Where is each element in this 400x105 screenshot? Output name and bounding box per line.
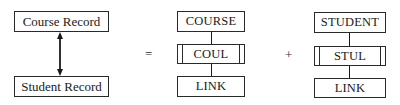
- student-record-label: Student Record: [21, 79, 102, 95]
- coul-box: COUL: [177, 44, 245, 64]
- student-label: STUDENT: [321, 15, 379, 30]
- connector-line: [211, 64, 212, 76]
- connector-line: [349, 66, 350, 78]
- student-record-box: Student Record: [14, 76, 109, 97]
- stul-label: STUL: [334, 49, 366, 64]
- equals-sign: =: [145, 47, 152, 60]
- connector-line: [211, 32, 212, 44]
- student-box: STUDENT: [314, 12, 386, 33]
- course-label: COURSE: [186, 14, 237, 29]
- course-link-label: LINK: [196, 79, 227, 94]
- coul-label: COUL: [194, 47, 229, 62]
- course-box: COURSE: [177, 11, 245, 32]
- stul-box: STUL: [314, 46, 386, 66]
- connector-line: [349, 33, 350, 46]
- plus-sign: +: [285, 48, 292, 61]
- course-link-box: LINK: [177, 76, 245, 97]
- student-link-label: LINK: [335, 81, 366, 96]
- student-link-box: LINK: [314, 78, 386, 98]
